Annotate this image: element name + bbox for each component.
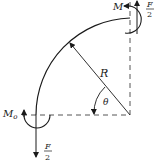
diagram-canvas: M F 2 R θ Mo F 2 [0, 0, 158, 162]
top-moment-arc [125, 6, 141, 33]
curved-beam-arc [36, 18, 130, 115]
bottom-moment-arc [24, 115, 50, 128]
top-moment-label: M [112, 1, 124, 12]
radius-label: R [99, 67, 108, 80]
top-force-denominator: 2 [147, 10, 152, 19]
bottom-moment-label: Mo [2, 108, 17, 121]
curved-beam-diagram: M F 2 R θ Mo F 2 [0, 0, 158, 162]
angle-label: θ [103, 97, 109, 107]
top-force-numerator: F [146, 0, 153, 9]
bottom-force-denominator: 2 [45, 153, 50, 162]
bottom-force-numerator: F [44, 142, 51, 151]
